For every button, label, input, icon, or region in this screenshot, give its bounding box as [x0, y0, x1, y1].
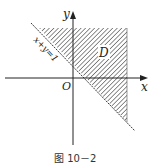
region-label: D	[98, 46, 109, 60]
coordinate-diagram: y x O D x+y=1 图 10－2	[0, 0, 152, 167]
x-axis-label: x	[141, 80, 148, 94]
y-axis-arrow-icon	[70, 11, 76, 19]
figure-caption: 图 10－2	[54, 153, 96, 164]
origin-label: O	[62, 80, 71, 93]
y-axis-label: y	[62, 7, 70, 21]
shaded-region-d	[39, 28, 127, 122]
